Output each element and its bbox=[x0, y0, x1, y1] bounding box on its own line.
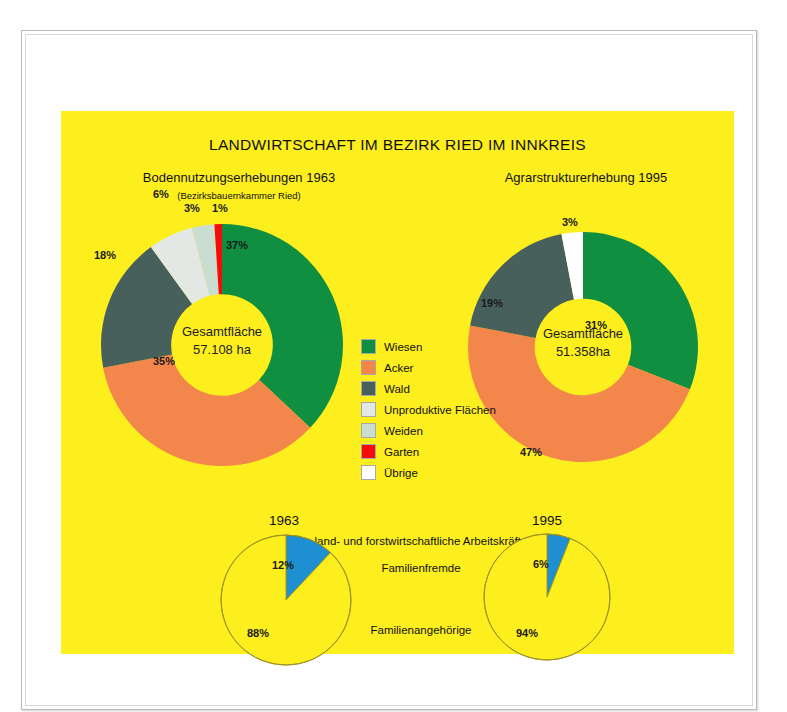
left-chart-source-note: (Bezirksbauernkammer Ried) bbox=[89, 190, 389, 201]
legend-item-unproduktive-flaechen[interactable]: Unproduktive Flächen bbox=[361, 399, 496, 420]
pie-left-label-external: 12% bbox=[272, 559, 294, 571]
legend-swatch-unproduktive-flaechen bbox=[361, 402, 376, 417]
donut-right-svg bbox=[467, 231, 699, 463]
donut-left-svg bbox=[100, 223, 344, 467]
legend-label-uebrige: Übrige bbox=[384, 467, 418, 479]
legend-item-uebrige[interactable]: Übrige bbox=[361, 462, 496, 483]
legend-item-acker[interactable]: Acker bbox=[361, 357, 496, 378]
legend-label-unproduktive-flaechen: Unproduktive Flächen bbox=[384, 404, 496, 416]
pie-chart-arbeitskraefte-1995 bbox=[483, 533, 611, 661]
donut-right-label-uebrige: 3% bbox=[562, 216, 578, 228]
poster-panel: LANDWIRTSCHAFT IM BEZIRK RIED IM INNKREI… bbox=[61, 111, 734, 654]
legend-swatch-weiden bbox=[361, 423, 376, 438]
workforce-left-year: 1963 bbox=[239, 513, 329, 528]
donut-left-label-weiden: 3% bbox=[184, 202, 200, 214]
legend-swatch-uebrige bbox=[361, 465, 376, 480]
pie-slice bbox=[221, 535, 351, 665]
legend-item-garten[interactable]: Garten bbox=[361, 441, 496, 462]
legend-swatch-acker bbox=[361, 360, 376, 375]
pie-left-svg bbox=[220, 534, 352, 666]
donut-chart-bodennutzung-1963: Gesamtfläche 57.108 ha bbox=[100, 223, 344, 467]
legend-label-wiesen: Wiesen bbox=[384, 341, 422, 353]
legend-label-wald: Wald bbox=[384, 383, 410, 395]
pie-chart-arbeitskraefte-1963 bbox=[220, 534, 352, 666]
screenshot-root: LANDWIRTSCHAFT IM BEZIRK RIED IM INNKREI… bbox=[0, 0, 787, 712]
legend-item-weiden[interactable]: Weiden bbox=[361, 420, 496, 441]
legend-label-acker: Acker bbox=[384, 362, 413, 374]
right-chart-title: Agrarstrukturerhebung 1995 bbox=[461, 170, 711, 185]
legend-swatch-garten bbox=[361, 444, 376, 459]
left-chart-title: Bodennutzungserhebungen 1963 bbox=[89, 170, 389, 185]
scanned-page-sheet: LANDWIRTSCHAFT IM BEZIRK RIED IM INNKREI… bbox=[21, 30, 757, 710]
page-title: LANDWIRTSCHAFT IM BEZIRK RIED IM INNKREI… bbox=[61, 136, 734, 154]
legend-label-garten: Garten bbox=[384, 446, 419, 458]
legend-label-weiden: Weiden bbox=[384, 425, 423, 437]
legend: Wiesen Acker Wald Unproduktive Flächen W… bbox=[361, 336, 496, 483]
legend-item-wald[interactable]: Wald bbox=[361, 378, 496, 399]
pie-slice bbox=[470, 234, 574, 338]
pie-right-label-family: 94% bbox=[516, 627, 538, 639]
legend-swatch-wald bbox=[361, 381, 376, 396]
legend-swatch-wiesen bbox=[361, 339, 376, 354]
donut-left-label-garten: 1% bbox=[212, 202, 228, 214]
donut-chart-agrarstruktur-1995: Gesamtfläche 51.358ha bbox=[467, 231, 699, 463]
pie-right-label-external: 6% bbox=[533, 558, 549, 570]
workforce-right-year: 1995 bbox=[502, 513, 592, 528]
pie-left-label-family: 88% bbox=[247, 627, 269, 639]
legend-item-wiesen[interactable]: Wiesen bbox=[361, 336, 496, 357]
pie-slice bbox=[484, 534, 610, 660]
pie-right-svg bbox=[483, 533, 611, 661]
pie-slice bbox=[583, 232, 698, 389]
